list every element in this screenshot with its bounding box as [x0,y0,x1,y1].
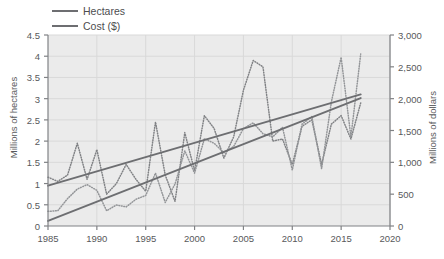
plot-background [48,35,390,226]
x-tick-label: 2015 [331,233,352,244]
chart-container: Hectares Cost ($) Millions of hectares M… [0,0,444,259]
y-tick-label-left: 3 [0,93,40,104]
x-tick-label: 2020 [379,233,400,244]
y-tick-label-right: 2,000 [398,93,422,104]
legend-item-hectares: Hectares [52,4,125,17]
x-tick-label: 2010 [282,233,303,244]
legend-item-cost: Cost ($) [52,19,125,32]
y-tick-label-left: 0.5 [0,199,40,210]
y-tick-label-right: 1,000 [398,157,422,168]
legend-label-hectares: Hectares [83,5,125,17]
y-tick-label-left: 3.5 [0,72,40,83]
y-tick-label-right: 2,500 [398,61,422,72]
y-tick-label-right: 3,000 [398,30,422,41]
legend-label-cost: Cost ($) [83,20,120,32]
y-tick-label-right: 0 [398,221,403,232]
y-tick-label-left: 2.5 [0,114,40,125]
y-axis-title-right: Millions of dollars [427,68,438,188]
y-tick-label-left: 0 [0,221,40,232]
legend-swatch-hectares [52,10,78,12]
y-tick-label-left: 4.5 [0,30,40,41]
x-tick-label: 2000 [184,233,205,244]
y-tick-label-left: 2 [0,136,40,147]
x-tick-label: 2005 [233,233,254,244]
x-tick-label: 1985 [37,233,58,244]
y-tick-label-left: 1 [0,178,40,189]
plot-area [0,0,444,259]
x-tick-label: 1990 [86,233,107,244]
x-tick-label: 1995 [135,233,156,244]
y-tick-label-left: 1.5 [0,157,40,168]
y-tick-label-right: 500 [398,189,414,200]
y-tick-label-right: 1,500 [398,125,422,136]
chart-legend: Hectares Cost ($) [52,4,125,32]
legend-swatch-cost [52,25,78,27]
y-tick-label-left: 4 [0,51,40,62]
